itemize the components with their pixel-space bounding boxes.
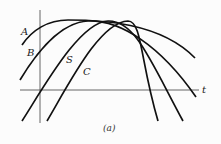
curve-b-label: B	[26, 47, 34, 58]
curve-c-label: C	[83, 66, 91, 77]
t-axis-label: t	[202, 84, 207, 95]
phase-diagram: A B S C t (a)	[0, 0, 221, 144]
diagram-canvas: A B S C t (a)	[0, 0, 221, 144]
curve-b	[20, 21, 196, 97]
curve-a-label: A	[20, 26, 28, 37]
curve-a	[22, 20, 195, 58]
figure-caption: (a)	[103, 123, 116, 133]
curve-s-label: S	[66, 54, 73, 65]
curve-c	[47, 21, 158, 121]
